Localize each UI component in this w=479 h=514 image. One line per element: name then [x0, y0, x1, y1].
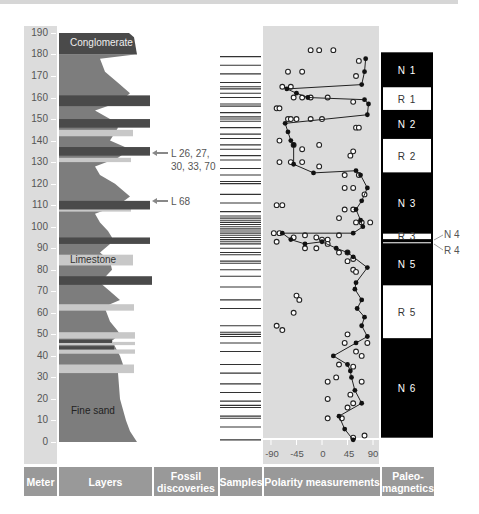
paleo-zone-label: R 2 — [398, 150, 417, 161]
axis-label-90: 90 — [368, 448, 379, 459]
paleo-zone-label: N 3 — [398, 198, 417, 209]
footer-meter: Meter — [24, 467, 57, 496]
paleo-zone-label: N 5 — [398, 258, 417, 269]
axis-label-45: 45 — [344, 448, 355, 459]
paleo-zone-label: N 2 — [398, 119, 417, 130]
paleo-zone-label: R 3 — [398, 231, 417, 242]
paleo-zone-label: R 1 — [398, 93, 417, 104]
footer-samples: Samples — [220, 467, 262, 496]
footer-polarity-measurements: Polarity measurements — [264, 467, 380, 496]
side-label-n4: N 4 — [444, 229, 460, 240]
fossil-label-lower: L 68 — [171, 196, 190, 207]
r4-leader — [434, 244, 443, 250]
fossil-label-upper: L 26, 27, — [171, 148, 210, 159]
fossil-label-upper-2: 30, 33, 70 — [171, 161, 215, 172]
paleo-zone-label: N 6 — [398, 383, 417, 394]
n4-leader — [434, 235, 443, 240]
label-fine-sand: Fine sand — [71, 405, 115, 416]
axis-label-neg90: -90 — [265, 448, 279, 459]
fossil-arrow-upper — [152, 150, 168, 156]
footer-layers: Layers — [59, 467, 152, 496]
axis-label-0: 0 — [320, 448, 325, 459]
axis-label-neg45: -45 — [290, 448, 304, 459]
footer-paleomagnetics: Paleo-magnetics — [382, 467, 434, 496]
fossil-arrow-lower — [152, 198, 168, 204]
side-label-r4: R 4 — [444, 245, 460, 256]
label-limestone: Limestone — [70, 254, 116, 265]
layers-column — [59, 33, 152, 442]
paleo-zone-label: R 5 — [398, 306, 417, 317]
polarity-panel — [263, 26, 379, 464]
paleomagnetic-column — [381, 52, 433, 437]
paleo-zone-label: N 1 — [398, 64, 417, 75]
footer-fossil-discoveries: Fossil discoveries — [154, 467, 218, 496]
label-conglomerate: Conglomerate — [70, 37, 133, 48]
samples-column — [220, 57, 261, 440]
